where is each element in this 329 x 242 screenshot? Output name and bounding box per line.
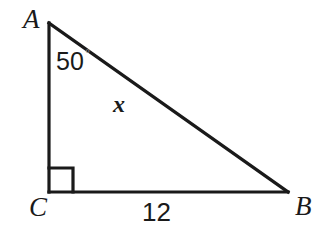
right-angle-marker-icon (49, 168, 73, 192)
side-label-base: 12 (142, 199, 171, 225)
vertex-label-a: A (23, 6, 40, 33)
degree-symbol-icon: ° (85, 47, 90, 60)
angle-measure-at-a: 50 (56, 49, 84, 74)
vertex-label-b: B (295, 193, 312, 220)
vertex-label-c: C (29, 194, 47, 221)
geometry-diagram: A C B 50 ° x 12 (0, 0, 329, 242)
side-label-hypotenuse: x (113, 92, 125, 116)
